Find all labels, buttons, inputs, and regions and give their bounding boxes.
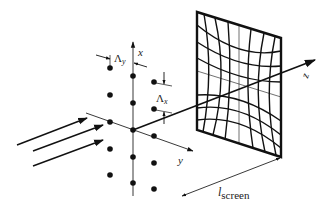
incoming-beam-arrow xyxy=(33,125,103,151)
lattice-dot xyxy=(130,73,136,79)
screen-distance-subscript: screen xyxy=(221,189,250,201)
lattice-dot xyxy=(151,160,157,166)
lambda-y-arrow-right xyxy=(134,63,147,67)
incoming-beams xyxy=(17,118,103,166)
y-axis-arrow xyxy=(86,113,193,151)
lattice-dot xyxy=(151,79,157,85)
lattice-dot xyxy=(151,186,157,192)
lambda-y-symbol: Λ xyxy=(114,52,122,64)
incoming-beam-arrow xyxy=(17,118,87,145)
lattice-dot xyxy=(107,146,113,152)
z-axis-label: z xyxy=(298,71,311,81)
lattice-dot xyxy=(130,154,136,160)
lattice-dot xyxy=(151,133,157,139)
lambda-x-subscript: x xyxy=(163,97,168,106)
projection-screen xyxy=(197,12,281,157)
svg-text:Λx: Λx xyxy=(156,92,168,106)
svg-text:Λy: Λy xyxy=(114,52,126,66)
incoming-beam-arrow xyxy=(33,140,103,166)
y-axis-label: y xyxy=(177,154,183,166)
lattice-dot xyxy=(107,92,113,98)
diffraction-diagram: z y x Λy Λx xyxy=(0,0,330,210)
lattice-dot xyxy=(107,172,113,178)
lattice-dot-origin xyxy=(130,127,136,133)
emitter-lattice xyxy=(107,65,157,192)
lattice-dot xyxy=(151,106,157,112)
svg-text:lscreen: lscreen xyxy=(218,185,250,201)
lattice-dot xyxy=(130,180,136,186)
lambda-y-subscript: y xyxy=(121,57,126,66)
x-axis-label: x xyxy=(137,46,143,58)
lambda-y-arrow-left xyxy=(96,55,110,59)
lattice-dot xyxy=(107,65,113,71)
lattice-dot xyxy=(130,100,136,106)
lambda-x-symbol: Λ xyxy=(156,92,164,104)
lattice-dot xyxy=(107,119,113,125)
